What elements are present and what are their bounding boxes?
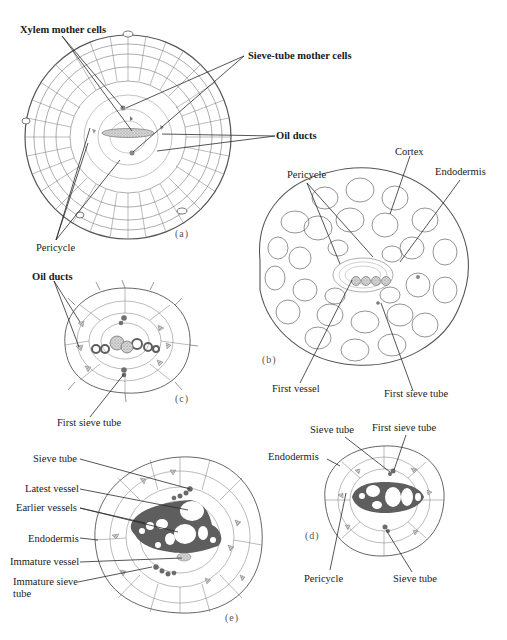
label-endodermis-d: Endodermis: [268, 451, 319, 462]
label-oil-ducts-c: Oil ducts: [32, 271, 73, 282]
label-cortex: Cortex: [395, 146, 424, 157]
label-first-sieve-tube-d: First sieve tube: [372, 422, 436, 433]
label-sieve-tube-mother-cells: Sieve-tube mother cells: [248, 50, 352, 61]
label-pericycle-d: Pericycle: [304, 573, 343, 584]
panel-label-a: (a): [175, 228, 189, 239]
label-immature-vessel: Immature vessel: [10, 556, 79, 567]
label-immature-sieve-tube-line1: Immature sieve: [13, 576, 78, 587]
label-sieve-tube-e: Sieve tube: [33, 453, 77, 464]
label-endodermis-e: Endodermis: [28, 533, 79, 544]
panel-label-c: (c): [175, 393, 189, 404]
panel-d-section: [325, 446, 444, 556]
label-oil-ducts-a: Oil ducts: [276, 130, 317, 141]
panel-e-section: [95, 457, 262, 613]
illustration-canvas: [0, 0, 507, 640]
panel-b-section: [260, 168, 469, 365]
label-immature-sieve-tube-line2: tube: [13, 588, 31, 599]
root-cross-section-figure: Xylem mother cells Sieve-tube mother cel…: [0, 0, 507, 640]
label-latest-vessel: Latest vessel: [25, 483, 79, 494]
label-sieve-tube-d-bottom: Sieve tube: [393, 573, 437, 584]
panel-label-b: (b): [262, 354, 277, 365]
panel-c-section: [65, 280, 198, 402]
label-first-sieve-tube-b: First sieve tube: [384, 388, 448, 399]
label-first-sieve-tube-c: First sieve tube: [57, 417, 121, 428]
panel-label-e: (e): [225, 612, 239, 623]
label-earlier-vessels: Earlier vessels: [16, 502, 77, 513]
label-xylem-mother-cells: Xylem mother cells: [20, 24, 106, 35]
label-pericycle-b: Pericycle: [287, 169, 326, 180]
panel-label-d: (d): [305, 530, 320, 541]
label-pericycle-a: Pericycle: [36, 242, 75, 253]
label-first-vessel: First vessel: [272, 383, 320, 394]
label-endodermis-b: Endodermis: [435, 166, 486, 177]
label-sieve-tube-d-top: Sieve tube: [310, 424, 354, 435]
